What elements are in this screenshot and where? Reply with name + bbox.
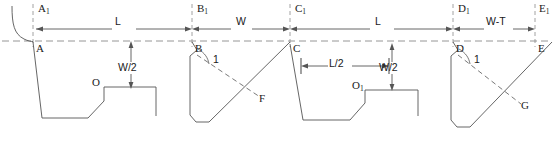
point-E1-label: E1 xyxy=(539,3,549,14)
point-F-label: F xyxy=(259,93,265,104)
point-G-label: G xyxy=(521,100,529,111)
dim-arrow-L-2-right xyxy=(446,27,453,32)
point-C-label: C xyxy=(293,43,300,54)
point-B-label: B xyxy=(195,43,202,54)
dim-arrow-W-left xyxy=(192,27,199,32)
dim-arrow-W-half-left-bottom xyxy=(129,82,134,89)
point-B1-label: B1 xyxy=(197,3,208,14)
profile-notch-B xyxy=(190,42,209,122)
dim-L-half: L/2 xyxy=(329,58,344,69)
dim-arrow-W-half-right-top xyxy=(390,43,395,50)
dim-L-1: L xyxy=(115,16,121,27)
dim-L-2: L xyxy=(375,16,381,27)
dim-arrow-L-half-left xyxy=(301,64,308,69)
point-A-label: A xyxy=(36,43,44,54)
dim-W-half-right: W/2 xyxy=(379,62,398,73)
angle-leader-B xyxy=(197,55,260,97)
dim-arrow-L-2-left xyxy=(290,27,297,32)
dim-W-half-left: W/2 xyxy=(118,62,137,73)
dim-W-T: W-T xyxy=(486,16,506,27)
point-D-label: D xyxy=(456,43,464,54)
dim-arrow-L-1-right xyxy=(185,27,192,32)
point-O-label: O xyxy=(92,77,100,88)
dim-arrow-L-1-left xyxy=(36,27,43,32)
point-E-label: E xyxy=(538,43,545,54)
left-end-curve xyxy=(12,6,33,42)
profile-diagonal-BF xyxy=(209,42,290,122)
drawing-vector-layer xyxy=(0,0,554,147)
technical-drawing-canvas: L W L W-T W/2 L/2 W/2 A1 B1 C1 D1 E1 A B… xyxy=(0,0,554,147)
point-O1-label: O1 xyxy=(352,80,364,91)
dim-arrow-W-right xyxy=(283,27,290,32)
profile-diagonal-DG xyxy=(470,42,552,127)
dim-arrow-WT-left xyxy=(453,27,460,32)
profile-notch-D xyxy=(451,42,470,127)
dim-arrow-WT-right xyxy=(528,27,535,32)
point-C1-label: C1 xyxy=(295,3,306,14)
dim-arrow-W-half-left-top xyxy=(129,41,134,48)
angle-leader-D xyxy=(458,55,521,104)
angle-marker-D: 1 xyxy=(474,54,480,65)
point-D1-label: D1 xyxy=(458,3,470,14)
dim-W: W xyxy=(236,16,246,27)
point-A1-label: A1 xyxy=(38,3,50,14)
angle-marker-B: 1 xyxy=(213,54,219,65)
